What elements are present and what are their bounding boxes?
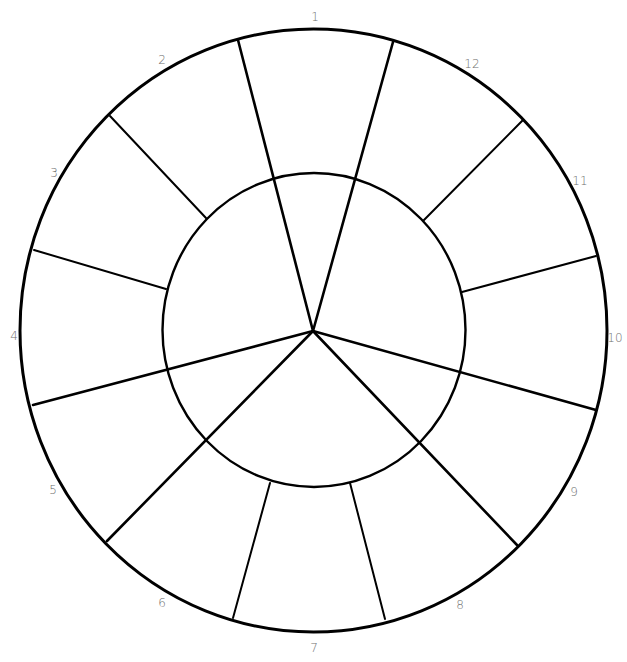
segment-label-3: 3	[50, 166, 58, 180]
spoke-5-6	[107, 331, 313, 541]
segment-label-1: 1	[311, 10, 319, 24]
spoke-11-12	[424, 120, 523, 220]
spoke-7-8	[350, 483, 385, 619]
spokes	[33, 40, 596, 619]
spoke-12-1	[313, 42, 393, 331]
spoke-9-10	[313, 331, 596, 410]
spoke-6-7	[233, 483, 270, 618]
segment-label-2: 2	[158, 53, 166, 67]
segment-label-11: 11	[572, 174, 587, 188]
segment-label-12: 12	[464, 57, 479, 71]
segment-label-8: 8	[456, 598, 464, 612]
spoke-3-4	[34, 250, 166, 289]
spoke-1-2	[238, 40, 313, 331]
color-wheel-diagram: 123456789101112	[0, 0, 627, 662]
segment-label-9: 9	[570, 485, 578, 499]
segment-label-5: 5	[49, 483, 57, 497]
segment-label-10: 10	[607, 331, 622, 345]
segment-label-7: 7	[310, 641, 318, 655]
spoke-2-3	[110, 116, 206, 218]
spoke-4-5	[33, 331, 313, 405]
spoke-10-11	[462, 256, 596, 292]
spoke-8-9	[313, 331, 517, 545]
segment-label-6: 6	[158, 596, 166, 610]
segment-label-4: 4	[10, 329, 18, 343]
